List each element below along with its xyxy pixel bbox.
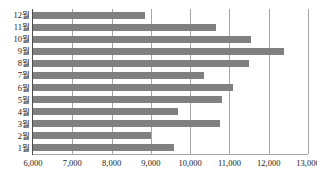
y-tick-2월: 2월	[0, 130, 30, 142]
y-axis-tick-labels: 1월2월3월4월5월6월7월8월9월10월11월12월	[0, 9, 30, 154]
bar-2월	[33, 132, 151, 139]
chart-title-remnant	[36, 0, 186, 5]
y-tick-8월: 8월	[0, 57, 30, 69]
bar-row	[33, 106, 308, 118]
x-axis-line	[33, 154, 308, 155]
x-tick-7000: 7,000	[63, 156, 82, 170]
bar-row	[33, 9, 308, 21]
bar-row	[33, 118, 308, 130]
bar-row	[33, 94, 308, 106]
x-axis-tick-labels: 6,0007,0008,0009,00010,00011,00012,00013…	[0, 156, 317, 170]
y-tick-3월: 3월	[0, 118, 30, 130]
bar-5월	[33, 96, 222, 103]
x-tick-12000: 12,000	[257, 156, 280, 170]
bar-row	[33, 130, 308, 142]
bar-6월	[33, 84, 233, 91]
bar-row	[33, 33, 308, 45]
bar-row	[33, 82, 308, 94]
x-tick-8000: 8,000	[102, 156, 121, 170]
gridline	[308, 9, 309, 154]
bar-4월	[33, 108, 178, 115]
x-tick-6000: 6,000	[23, 156, 42, 170]
bar-row	[33, 142, 308, 154]
bar-12월	[33, 12, 145, 19]
y-tick-11월: 11월	[0, 21, 30, 33]
bar-rows	[33, 9, 308, 154]
y-tick-5월: 5월	[0, 94, 30, 106]
bar-chart: 1월2월3월4월5월6월7월8월9월10월11월12월 6,0007,0008,…	[0, 0, 317, 177]
x-tick-9000: 9,000	[141, 156, 160, 170]
bar-row	[33, 69, 308, 81]
plot-area	[33, 9, 308, 154]
bar-8월	[33, 60, 249, 67]
bar-row	[33, 57, 308, 69]
bar-row	[33, 21, 308, 33]
x-tick-10000: 10,000	[178, 156, 201, 170]
y-tick-10월: 10월	[0, 33, 30, 45]
y-tick-4월: 4월	[0, 106, 30, 118]
y-tick-9월: 9월	[0, 45, 30, 57]
bar-7월	[33, 72, 204, 79]
x-tick-13000: 13,000	[296, 156, 317, 170]
y-tick-7월: 7월	[0, 69, 30, 81]
bar-1월	[33, 144, 174, 151]
bar-row	[33, 45, 308, 57]
bar-3월	[33, 120, 220, 127]
x-tick-11000: 11,000	[218, 156, 241, 170]
y-tick-12월: 12월	[0, 9, 30, 21]
y-tick-1월: 1월	[0, 142, 30, 154]
y-tick-6월: 6월	[0, 82, 30, 94]
bar-11월	[33, 24, 216, 31]
bar-9월	[33, 48, 284, 55]
bar-10월	[33, 36, 251, 43]
